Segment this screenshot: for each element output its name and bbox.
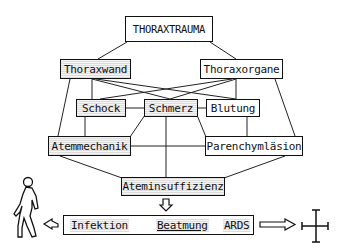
node-thoraxorgane: Thoraxorgane	[200, 59, 283, 79]
node-blutung: Blutung	[206, 99, 260, 117]
outcome-ards: ARDS	[223, 219, 250, 232]
node-schmerz: Schmerz	[144, 99, 198, 117]
cross-icon	[300, 208, 330, 244]
outcomes-box: Infektion Beatmung ARDS	[63, 215, 254, 235]
node-parenchymlaesion: Parenchymläsion	[205, 136, 303, 156]
node-thoraxwand: Thoraxwand	[60, 59, 131, 79]
node-thoraxtrauma: THORAXTRAUMA	[125, 16, 213, 42]
walking-person-icon	[10, 176, 40, 242]
outcome-beatmung: Beatmung	[156, 219, 209, 232]
node-schock: Schock	[76, 99, 126, 117]
outcome-infektion: Infektion	[70, 219, 129, 232]
node-ateminsuffizienz: Ateminsuffizienz	[121, 177, 225, 196]
node-atemmechanik: Atemmechanik	[48, 136, 131, 156]
